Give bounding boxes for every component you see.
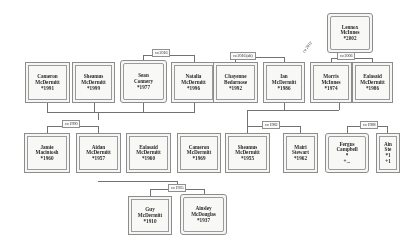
marriage-date-label[interactable]: co 2012 xyxy=(300,39,315,56)
person-node[interactable]: CameronMcDermitt*1969 xyxy=(177,133,221,173)
connector-line xyxy=(247,110,339,111)
connector-line xyxy=(387,126,388,133)
person-node[interactable]: AinSte*1+1 xyxy=(376,133,400,173)
person-birth-year: *1910 xyxy=(144,219,157,225)
marriage-date-label[interactable]: co 1988 xyxy=(360,121,378,129)
person-node-inner: GuyMcDermitt*1910 xyxy=(131,199,169,232)
person-node[interactable]: ChayenneBedarnose*1992 xyxy=(213,62,258,103)
connector-line xyxy=(98,181,177,182)
person-birth-year: *1996 xyxy=(187,86,200,92)
person-birth-year: *1957 xyxy=(92,156,105,162)
person-node-inner: FergusCampbell*+... xyxy=(328,136,366,170)
person-birth-year: *1969 xyxy=(193,156,206,162)
marriage-date-label[interactable]: co 1982 xyxy=(262,121,280,129)
person-node[interactable]: FergusCampbell*+... xyxy=(325,133,369,173)
marriage-date-label[interactable]: co 2006 xyxy=(337,52,355,60)
marriage-date-label[interactable]: co 1935 xyxy=(168,184,186,192)
person-birth-year: *1960 xyxy=(41,156,54,162)
person-node[interactable]: IanMcDermitt*1986 xyxy=(263,62,305,103)
person-birth-year: *1992 xyxy=(229,86,242,92)
person-node[interactable]: CameronMcDermitt*1991 xyxy=(25,62,70,103)
person-node[interactable]: SheamusMcDermitt*1999 xyxy=(72,62,115,103)
person-node[interactable]: SeanConnery*1977 xyxy=(120,60,167,103)
connector-line xyxy=(347,126,348,133)
person-node-inner: SheamusMcDermitt*1955 xyxy=(228,136,267,170)
person-node-inner: NataliaMcDermitt*1996 xyxy=(174,65,213,100)
person-node-inner: LennoxMcInnes*2002 xyxy=(330,16,370,50)
connector-line xyxy=(94,103,95,112)
connector-line xyxy=(247,110,248,126)
person-node[interactable]: EalasaidMcDermitt*1960 xyxy=(126,133,171,173)
connector-line xyxy=(194,55,195,62)
person-birth-year: *1977 xyxy=(137,85,150,91)
connector-line xyxy=(47,112,195,113)
person-node[interactable]: MorrisMcInnes*1974 xyxy=(310,62,352,103)
person-node[interactable]: GuyMcDermitt*1910 xyxy=(128,196,172,235)
person-death-year: +... xyxy=(344,159,351,165)
person-node[interactable]: NataliaMcDermitt*1996 xyxy=(171,62,216,103)
connector-line xyxy=(47,126,48,133)
person-node[interactable]: EalasaidMcDermitt*1986 xyxy=(352,62,393,103)
connector-line xyxy=(194,103,195,112)
person-node[interactable]: MairiStewart*1962 xyxy=(283,133,318,173)
person-birth-year: *1962 xyxy=(294,156,307,162)
connector-line xyxy=(339,103,340,110)
person-node[interactable]: AinsleyMcDouglas*1937 xyxy=(180,194,227,235)
person-node-inner: SheamusMcDermitt*1999 xyxy=(75,65,112,100)
person-birth-year: *1937 xyxy=(197,218,210,224)
person-birth-year: *1974 xyxy=(325,86,338,92)
person-node[interactable]: SheamusMcDermitt*1955 xyxy=(225,133,270,173)
person-node-inner: ChayenneBedarnose*1992 xyxy=(216,65,255,100)
person-node-inner: AidanMcDermitt*1957 xyxy=(79,136,118,170)
person-birth-year: *2002 xyxy=(344,36,357,42)
person-node-inner: MorrisMcInnes*1974 xyxy=(313,65,349,100)
person-birth-year: *1991 xyxy=(41,86,54,92)
connector-line xyxy=(300,126,301,133)
person-birth-year: *1955 xyxy=(241,156,254,162)
marriage-date-label[interactable]: co 1990 xyxy=(62,120,80,128)
connector-line xyxy=(284,103,285,110)
person-birth-year: *1960 xyxy=(142,156,155,162)
person-node-inner: IanMcDermitt*1986 xyxy=(266,65,302,100)
connector-line xyxy=(143,103,144,112)
person-node-inner: CameronMcDermitt*1969 xyxy=(180,136,218,170)
person-death-year: +1 xyxy=(385,159,391,165)
connector-line xyxy=(98,112,99,120)
person-node-inner: EalasaidMcDermitt*1960 xyxy=(129,136,168,170)
person-node-inner: AinSte*1+1 xyxy=(379,136,397,170)
marriage-date-label[interactable]: co 2016 xyxy=(152,49,170,57)
person-node-inner: JamieMacintosh*1960 xyxy=(27,136,67,170)
person-node-inner: CameronMcDermitt*1991 xyxy=(28,65,67,100)
person-node-inner: AinsleyMcDouglas*1937 xyxy=(183,197,224,232)
person-node-inner: EalasaidMcDermitt*1986 xyxy=(355,65,390,100)
connector-line xyxy=(150,189,151,196)
person-node[interactable]: JamieMacintosh*1960 xyxy=(24,133,70,173)
marriage-date-label[interactable]: co 2016 (alt) xyxy=(230,52,256,60)
connector-line xyxy=(47,103,48,112)
connector-line xyxy=(98,126,99,133)
person-birth-year: *1999 xyxy=(87,86,100,92)
connector-line xyxy=(247,126,248,133)
person-node-inner: SeanConnery*1977 xyxy=(123,63,164,100)
person-birth-year: *1986 xyxy=(278,86,291,92)
person-node[interactable]: LennoxMcInnes*2002 xyxy=(327,13,373,53)
person-node[interactable]: AidanMcDermitt*1957 xyxy=(76,133,121,173)
person-node-inner: MairiStewart*1962 xyxy=(286,136,315,170)
person-birth-year: *1986 xyxy=(366,86,379,92)
